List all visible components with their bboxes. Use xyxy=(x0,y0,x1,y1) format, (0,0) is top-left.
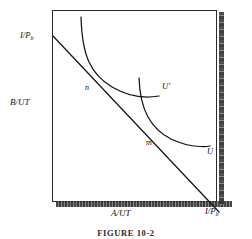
budget-line xyxy=(53,36,219,212)
vertical-intercept-subscript: b xyxy=(30,35,33,41)
figure-caption: FIGURE 10-2 xyxy=(0,228,252,239)
x-axis-label: A/UT xyxy=(111,209,131,218)
curve-label-u-prime: U′ xyxy=(162,82,170,91)
point-label-m: m xyxy=(146,139,152,147)
figure-container: I/Pb I/Pb B/UT A/UT n m U′ U FIGURE 10-2 xyxy=(0,0,252,239)
u-curve xyxy=(139,78,210,147)
y-axis-label: B/UT xyxy=(10,98,30,107)
vertical-intercept-label: I/Pb xyxy=(20,31,33,41)
curve-label-u: U xyxy=(207,147,213,156)
vertical-intercept-main: I/P xyxy=(20,30,30,40)
point-label-n: n xyxy=(85,84,89,92)
prime-mark-icon: ′ xyxy=(168,81,170,91)
horizontal-intercept-label: I/Pb xyxy=(205,207,218,217)
plot-canvas xyxy=(0,0,252,239)
horizontal-intercept-subscript: b xyxy=(215,211,218,217)
horizontal-intercept-main: I/P xyxy=(205,206,215,216)
u-prime-curve xyxy=(81,17,159,97)
